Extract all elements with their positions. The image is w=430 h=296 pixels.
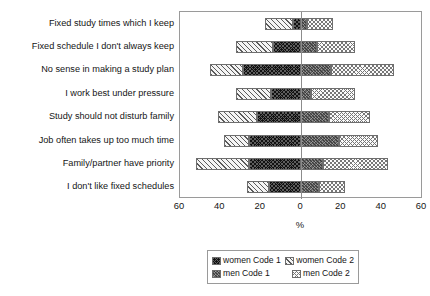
- zero-baseline: [301, 12, 302, 199]
- legend-swatch-men-code-1: [212, 270, 221, 278]
- bar-segment: [293, 18, 301, 30]
- bar-segment: [339, 135, 377, 147]
- bar-segment: [210, 64, 242, 76]
- category-label: No sense in making a study plan: [0, 64, 174, 74]
- bar-segment: [323, 158, 388, 170]
- bar-segment: [196, 158, 248, 170]
- bar-segment: [265, 18, 293, 30]
- legend-row: women Code 1 women Code 2: [212, 254, 354, 267]
- bar-segment: [329, 111, 369, 123]
- bar-segment: [269, 181, 301, 193]
- bar-segment: [271, 88, 301, 100]
- plot-frame: [179, 11, 422, 198]
- category-label: Job often takes up too much time: [0, 135, 174, 145]
- x-tick-label: 0: [285, 200, 315, 212]
- category-label: I don't like fixed schedules: [0, 181, 174, 191]
- legend-swatch-men-code-2: [292, 270, 301, 278]
- x-tick-label: 40: [366, 200, 396, 212]
- bar-segment: [243, 64, 301, 76]
- bar-segment: [319, 181, 345, 193]
- horizontal-diverging-bar-chart: Fixed study times which I keepFixed sche…: [0, 0, 430, 296]
- legend-item-women-code-2: women Code 2: [285, 254, 354, 267]
- chart-legend: women Code 1 women Code 2 men Code 1 men…: [207, 250, 359, 284]
- bar-segment: [249, 158, 301, 170]
- bar-segment: [331, 64, 394, 76]
- legend-label-men-code-2: men Code 2: [303, 269, 350, 278]
- bar-segment: [301, 64, 331, 76]
- bar-segment: [273, 41, 301, 53]
- x-tick-label: 20: [325, 200, 355, 212]
- bar-segment: [218, 111, 256, 123]
- legend-label-men-code-1: men Code 1: [223, 269, 270, 278]
- bar-segment: [301, 135, 339, 147]
- x-tick-label: 20: [245, 200, 275, 212]
- x-tick-label: 40: [204, 200, 234, 212]
- bar-segment: [307, 18, 333, 30]
- legend-item-men-code-2: men Code 2: [292, 267, 350, 280]
- legend-label-women-code-2: women Code 2: [296, 256, 354, 265]
- bar-segment: [249, 135, 301, 147]
- bar-segment: [301, 111, 329, 123]
- legend-row: men Code 1 men Code 2: [212, 267, 354, 280]
- category-label: Fixed schedule I don't always keep: [0, 41, 174, 51]
- bar-segment: [236, 88, 270, 100]
- category-label: Study should not disturb family: [0, 111, 174, 121]
- category-label: I work best under pressure: [0, 88, 174, 98]
- x-tick-label: 60: [406, 200, 430, 212]
- legend-swatch-women-code-1: [212, 257, 221, 265]
- bar-segment: [311, 88, 355, 100]
- x-axis-title: %: [285, 219, 315, 230]
- bar-segment: [247, 181, 269, 193]
- bar-segment: [224, 135, 248, 147]
- bar-segment: [301, 88, 311, 100]
- x-tick-label: 60: [164, 200, 194, 212]
- category-label: Family/partner have priority: [0, 158, 174, 168]
- category-label: Fixed study times which I keep: [0, 18, 174, 28]
- legend-item-women-code-1: women Code 1: [212, 254, 285, 267]
- bar-segment: [301, 158, 323, 170]
- bar-segment: [301, 41, 317, 53]
- bar-segment: [301, 181, 319, 193]
- legend-swatch-women-code-2: [285, 257, 294, 265]
- bar-segment: [236, 41, 272, 53]
- legend-item-men-code-1: men Code 1: [212, 267, 292, 280]
- legend-label-women-code-1: women Code 1: [223, 256, 281, 265]
- bar-segment: [317, 41, 355, 53]
- bar-segment: [257, 111, 301, 123]
- x-axis-tick-labels: 6040200204060: [0, 200, 430, 214]
- category-axis-labels: Fixed study times which I keepFixed sche…: [0, 11, 174, 198]
